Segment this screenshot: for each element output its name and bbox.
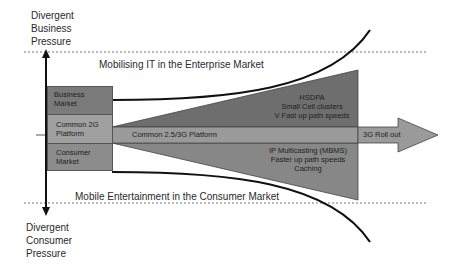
platform-label: Common 2.5/3G Platform <box>132 130 217 139</box>
arrow-down-icon <box>42 207 50 216</box>
business-market-label: Business Market <box>54 90 84 108</box>
rollout-label: 3G Roll out <box>363 130 401 139</box>
consumer-market-box: Consumer Market <box>47 143 113 171</box>
common-2g-label: Common 2G Platform <box>56 120 99 138</box>
lower-wedge-text: IP Multicasting (MBMS) Faster up path sp… <box>256 146 360 173</box>
divergent-consumer-pressure-label: Divergent Consumer Pressure <box>26 221 72 260</box>
business-market-box: Business Market <box>47 86 113 115</box>
arrow-up-icon <box>42 49 50 58</box>
upper-wedge-text: HSDPA Small Cell clusters V Fast up path… <box>262 93 362 120</box>
enterprise-market-title: Mobilising IT in the Enterprise Market <box>99 58 264 71</box>
consumer-market-title: Mobile Entertainment in the Consumer Mar… <box>75 190 279 203</box>
divergent-business-pressure-label: Divergent Business Pressure <box>31 9 74 48</box>
common-2g-box: Common 2G Platform <box>47 114 113 144</box>
consumer-market-label: Consumer Market <box>56 148 91 166</box>
